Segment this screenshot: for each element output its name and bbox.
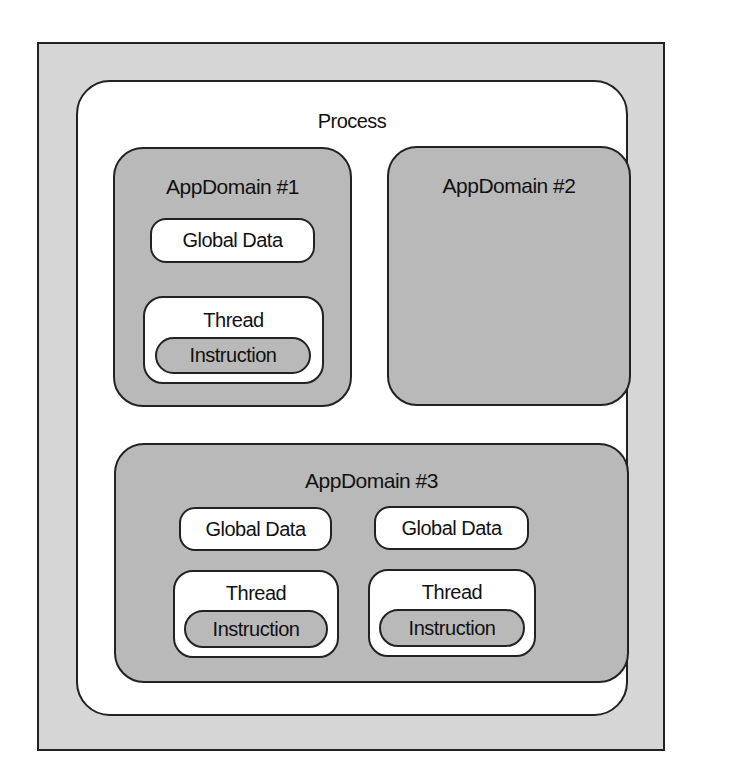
global-data-box: Global Data [374,506,529,550]
instruction-box: Instruction [155,337,311,374]
thread-label: Thread [175,582,337,605]
app-domain-2: AppDomain #2 [387,146,631,406]
global-data-label: Global Data [401,517,501,540]
instruction-label: Instruction [409,617,496,640]
app-domain-3-label: AppDomain #3 [116,469,627,493]
global-data-label: Global Data [205,518,305,541]
instruction-box: Instruction [379,609,525,647]
global-data-box: Global Data [150,218,315,263]
app-domain-1-label: AppDomain #1 [115,175,350,199]
instruction-label: Instruction [213,618,300,641]
instruction-label: Instruction [190,344,277,367]
app-domain-2-label: AppDomain #2 [389,174,629,198]
global-data-box: Global Data [179,507,332,551]
global-data-label: Global Data [182,229,282,252]
process-label: Process [78,110,626,133]
instruction-box: Instruction [184,610,328,648]
thread-label: Thread [145,309,322,332]
thread-label: Thread [370,581,534,604]
